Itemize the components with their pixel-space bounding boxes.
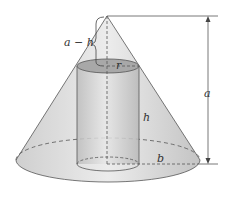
inscribed-cylinder: [77, 59, 139, 171]
cone-cylinder-diagram: a − h r h a b: [0, 0, 229, 201]
label-b: b: [157, 152, 164, 165]
label-a-minus-h: a − h: [64, 36, 94, 49]
label-a: a: [204, 87, 211, 100]
label-h: h: [143, 111, 150, 124]
label-r: r: [116, 59, 122, 72]
